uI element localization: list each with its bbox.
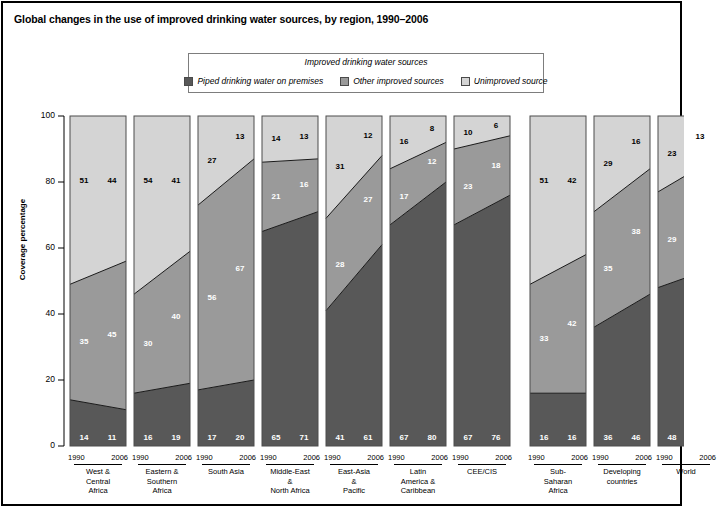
segment-value-label: 33 bbox=[689, 208, 711, 217]
band-divider bbox=[134, 251, 190, 294]
bar-outline bbox=[134, 116, 190, 446]
x-axis-years: 19902006 bbox=[388, 453, 448, 462]
category-label-line: Caribbean bbox=[378, 486, 458, 496]
x-axis-year-label: 1990 bbox=[260, 453, 277, 462]
segment-value-label: 16 bbox=[293, 180, 315, 189]
segment-value-label: 40 bbox=[165, 312, 187, 321]
segment-value-label: 71 bbox=[293, 433, 315, 442]
x-axis-year-label: 1990 bbox=[528, 453, 545, 462]
segment-value-label: 11 bbox=[101, 433, 123, 442]
segment-value-label: 76 bbox=[485, 433, 507, 442]
x-axis-year-label: 1990 bbox=[132, 453, 149, 462]
category-underline bbox=[534, 464, 582, 465]
y-axis-tick-label: 0 bbox=[29, 440, 55, 450]
segment-value-label: 46 bbox=[625, 433, 647, 442]
segment-value-label: 35 bbox=[73, 337, 95, 346]
segment-value-label: 10 bbox=[457, 128, 479, 137]
x-axis-year-label: 2006 bbox=[495, 453, 512, 462]
category-underline bbox=[458, 464, 506, 465]
bar-outline bbox=[70, 116, 126, 446]
band-divider bbox=[262, 159, 318, 162]
segment-value-label: 67 bbox=[457, 433, 479, 442]
x-axis-years: 19902006 bbox=[260, 453, 320, 462]
segment-value-label: 51 bbox=[533, 176, 555, 185]
category-label-line: America & bbox=[378, 477, 458, 487]
segment-value-label: 12 bbox=[357, 131, 379, 140]
segment-value-label: 33 bbox=[533, 334, 555, 343]
area-band bbox=[70, 116, 126, 284]
segment-value-label: 54 bbox=[689, 433, 711, 442]
band-divider bbox=[530, 255, 586, 285]
bar-outline bbox=[658, 116, 684, 446]
segment-value-label: 8 bbox=[421, 124, 443, 133]
area-band bbox=[326, 156, 382, 311]
x-axis-year-label: 2006 bbox=[111, 453, 128, 462]
x-axis-years: 19902006 bbox=[528, 453, 588, 462]
x-axis-year-label: 2006 bbox=[571, 453, 588, 462]
legend-item-other: Other improved sources bbox=[340, 76, 444, 86]
category-underline bbox=[74, 464, 122, 465]
category-underline bbox=[202, 464, 250, 465]
segment-value-label: 35 bbox=[597, 264, 619, 273]
y-axis-tick-label: 60 bbox=[29, 242, 55, 252]
segment-value-label: 17 bbox=[201, 433, 223, 442]
x-axis-years: 19902006 bbox=[68, 453, 128, 462]
band-divider bbox=[326, 245, 382, 311]
segment-value-label: 41 bbox=[165, 176, 187, 185]
area-band bbox=[262, 212, 318, 446]
y-axis-tick-label: 20 bbox=[29, 374, 55, 384]
legend-item-unimproved: Unimproved source bbox=[461, 76, 548, 86]
segment-value-label: 23 bbox=[457, 182, 479, 191]
square-swatch-light-icon bbox=[461, 77, 470, 86]
area-band bbox=[658, 159, 684, 288]
segment-value-label: 44 bbox=[101, 176, 123, 185]
band-divider bbox=[454, 136, 510, 149]
segment-value-label: 12 bbox=[421, 157, 443, 166]
area-band bbox=[390, 182, 446, 446]
y-axis-tick-label: 100 bbox=[29, 110, 55, 120]
category-label-line: World bbox=[646, 467, 721, 477]
band-divider bbox=[658, 268, 684, 288]
area-band bbox=[326, 245, 382, 446]
bar-outline bbox=[262, 116, 318, 446]
x-axis-category-label: CEE/CIS bbox=[442, 467, 522, 477]
category-underline bbox=[598, 464, 646, 465]
area-band bbox=[134, 251, 190, 393]
segment-value-label: 42 bbox=[561, 176, 583, 185]
segment-value-label: 65 bbox=[265, 433, 287, 442]
segment-value-label: 27 bbox=[201, 156, 223, 165]
segment-value-label: 13 bbox=[293, 132, 315, 141]
area-band bbox=[658, 268, 684, 446]
legend-items: Piped drinking water on premises Other i… bbox=[189, 73, 543, 89]
band-divider bbox=[594, 294, 650, 327]
x-axis-category-label: World bbox=[646, 467, 721, 477]
x-axis-year-label: 2006 bbox=[175, 453, 192, 462]
x-axis-year-label: 2006 bbox=[635, 453, 652, 462]
category-underline bbox=[330, 464, 378, 465]
x-axis-year-label: 1990 bbox=[452, 453, 469, 462]
segment-value-label: 38 bbox=[625, 227, 647, 236]
band-divider bbox=[454, 195, 510, 225]
area-band bbox=[134, 116, 190, 294]
category-underline bbox=[394, 464, 442, 465]
legend-heading: Improved drinking water sources bbox=[189, 57, 543, 67]
area-band bbox=[594, 294, 650, 446]
x-axis-year-label: 1990 bbox=[196, 453, 213, 462]
segment-value-label: 23 bbox=[661, 149, 683, 158]
segment-value-label: 29 bbox=[661, 235, 683, 244]
band-divider bbox=[594, 169, 650, 212]
y-axis-ticks: 100806040200 bbox=[29, 3, 55, 508]
segment-value-label: 51 bbox=[73, 176, 95, 185]
segment-value-label: 14 bbox=[265, 134, 287, 143]
x-axis-years: 19902006 bbox=[592, 453, 652, 462]
x-axis-year-label: 2006 bbox=[303, 453, 320, 462]
segment-value-label: 6 bbox=[485, 121, 507, 130]
x-axis-year-label: 2006 bbox=[431, 453, 448, 462]
segment-value-label: 19 bbox=[165, 433, 187, 442]
x-axis-year-label: 1990 bbox=[592, 453, 609, 462]
band-divider bbox=[658, 159, 684, 192]
legend-item-label: Piped drinking water on premises bbox=[197, 76, 323, 86]
legend-item-piped: Piped drinking water on premises bbox=[184, 76, 323, 86]
x-axis-year-label: 1990 bbox=[656, 453, 673, 462]
segment-value-label: 42 bbox=[561, 319, 583, 328]
